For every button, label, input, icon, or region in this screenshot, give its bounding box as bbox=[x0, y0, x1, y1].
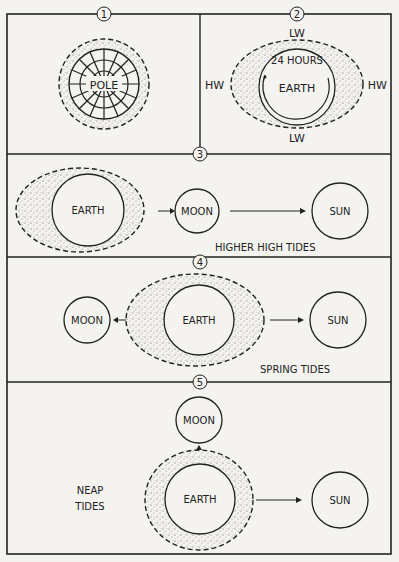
svg-text:NEAP: NEAP bbox=[77, 485, 104, 496]
svg-text:MOON: MOON bbox=[183, 415, 215, 426]
hw-right-label: HW bbox=[368, 79, 387, 92]
svg-text:EARTH: EARTH bbox=[182, 315, 215, 326]
panel-4-spring-tides: EARTH MOON SUN SPRING TIDES bbox=[64, 274, 366, 375]
svg-text:EARTH: EARTH bbox=[71, 205, 104, 216]
panel-3-number: 3 bbox=[193, 147, 207, 161]
panel-2-number: 2 bbox=[290, 7, 304, 21]
svg-text:4: 4 bbox=[197, 257, 203, 268]
caption: HIGHER HIGH TIDES bbox=[215, 242, 316, 253]
panel-2-rotation: EARTH 24 HOURS LW LW HW HW bbox=[205, 27, 387, 145]
panel-4-number: 4 bbox=[193, 255, 207, 269]
svg-text:1: 1 bbox=[101, 9, 107, 20]
panel-5-number: 5 bbox=[193, 375, 207, 389]
tides-diagram: 1 2 3 4 5 POLE bbox=[0, 0, 399, 562]
panel-1-pole: POLE bbox=[59, 39, 149, 129]
panel-5-neap-tides: MOON EARTH SUN NEAP TIDES bbox=[74, 397, 368, 550]
pole-label: POLE bbox=[90, 79, 118, 92]
svg-text:MOON: MOON bbox=[71, 315, 103, 326]
lw-bottom-label: LW bbox=[289, 132, 305, 145]
svg-text:TIDES: TIDES bbox=[74, 501, 104, 512]
svg-text:SUN: SUN bbox=[329, 495, 350, 506]
hours-arc-label: 24 HOURS bbox=[271, 55, 323, 66]
hw-left-label: HW bbox=[205, 79, 224, 92]
svg-text:SUN: SUN bbox=[327, 315, 348, 326]
panel-1-number: 1 bbox=[97, 7, 111, 21]
svg-text:5: 5 bbox=[197, 377, 203, 388]
svg-text:3: 3 bbox=[197, 149, 203, 160]
svg-text:EARTH: EARTH bbox=[279, 82, 315, 95]
svg-text:2: 2 bbox=[294, 9, 300, 20]
panel-3-higher-high-tides: EARTH MOON SUN HIGHER HIGH TIDES bbox=[16, 168, 368, 253]
caption: SPRING TIDES bbox=[260, 364, 330, 375]
svg-text:SUN: SUN bbox=[329, 206, 350, 217]
lw-top-label: LW bbox=[289, 27, 305, 40]
svg-text:MOON: MOON bbox=[181, 206, 213, 217]
svg-text:EARTH: EARTH bbox=[183, 494, 216, 505]
